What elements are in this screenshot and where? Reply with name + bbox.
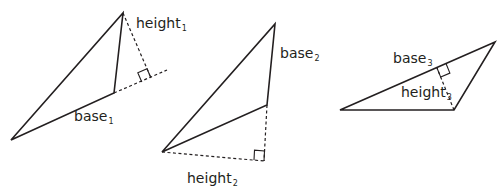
triangle-2 — [162, 24, 275, 161]
height-1-label: height1 — [136, 16, 187, 33]
base-2-subscript: 2 — [314, 54, 319, 63]
height-1-text: height — [136, 15, 181, 31]
height-3-text: height — [401, 84, 446, 100]
base-1-label: base1 — [74, 109, 113, 126]
triangle-2-height-line — [162, 152, 264, 161]
base-1-subscript: 1 — [108, 117, 113, 126]
base-3-label: base3 — [393, 51, 432, 68]
height-3-label: height3 — [401, 85, 452, 102]
base-1-text: base — [74, 108, 107, 124]
height-2-subscript: 2 — [233, 179, 238, 188]
height-2-text: height — [187, 170, 232, 186]
triangle-1-base-extension — [114, 70, 167, 93]
base-3-text: base — [393, 50, 426, 66]
height-1-subscript: 1 — [182, 24, 187, 33]
triangle-base-height-diagram: height1 base1 base2 height2 base3 height… — [0, 0, 503, 192]
height-3-subscript: 3 — [447, 93, 452, 102]
triangle-2-outline — [162, 24, 275, 152]
base-3-subscript: 3 — [427, 59, 432, 68]
height-2-label: height2 — [187, 171, 238, 188]
triangle-2-right-angle-marker — [254, 150, 265, 161]
base-2-label: base2 — [280, 46, 319, 63]
base-2-text: base — [280, 45, 313, 61]
